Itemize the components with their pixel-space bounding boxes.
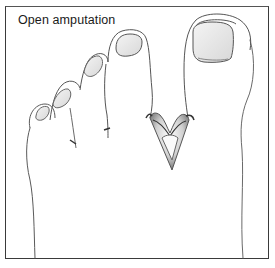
toe-fifth bbox=[29, 104, 55, 128]
toe-third bbox=[80, 54, 110, 138]
figure-title: Open amputation bbox=[18, 13, 115, 27]
foot-illustration bbox=[0, 0, 275, 268]
foot-outline bbox=[27, 40, 254, 258]
toe-big bbox=[184, 14, 251, 118]
toe-second bbox=[108, 30, 152, 118]
amputation-wound bbox=[146, 113, 194, 170]
